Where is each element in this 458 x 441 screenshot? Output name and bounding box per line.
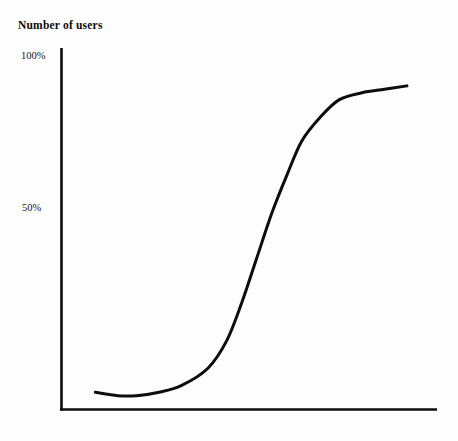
adoption-curve-line (95, 86, 407, 396)
chart-figure: Number of users 100% 50% (0, 0, 458, 441)
plot-area (0, 0, 458, 441)
